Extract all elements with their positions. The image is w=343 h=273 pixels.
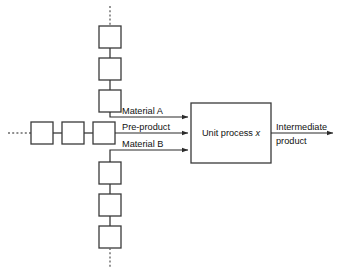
material-b-flow-arrow [110,150,188,162]
upper-chain-node-1[interactable] [99,26,121,48]
unit-process-label: Unit process x [202,128,261,138]
left-chain-node-2[interactable] [62,122,84,144]
intermediate-product-label-line1: Intermediate [276,122,327,132]
material-b-label: Material B [122,139,163,149]
unit-process-label-variable: x [255,128,261,138]
lower-chain-node-1[interactable] [99,162,121,184]
pre-product-label: Pre-product [122,122,170,132]
upper-chain [99,6,121,112]
unit-process-label-prefix: Unit process [202,128,256,138]
material-a-label: Material A [122,106,164,116]
lower-chain [99,162,121,267]
left-chain [8,122,115,144]
intermediate-product-label-line2: product [276,136,307,146]
left-chain-node-1[interactable] [31,122,53,144]
left-chain-node-3[interactable] [93,122,115,144]
lower-chain-node-2[interactable] [99,194,121,216]
upper-chain-node-3[interactable] [99,90,121,112]
upper-chain-node-2[interactable] [99,58,121,80]
diagram-canvas: Material A Pre-product Material B Unit p… [0,0,343,273]
lower-chain-node-3[interactable] [99,226,121,248]
flow-diagram: Material A Pre-product Material B Unit p… [0,0,343,273]
